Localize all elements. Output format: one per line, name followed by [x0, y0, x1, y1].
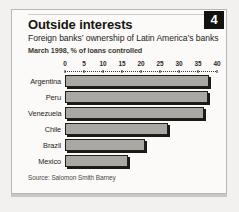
bar-row: Chile [28, 122, 220, 138]
x-axis-tick-label: 20 [137, 60, 144, 67]
bar-category-label: Mexico [28, 157, 61, 166]
x-axis-tick-mark [160, 70, 161, 73]
bar-category-label: Brazil [28, 141, 61, 150]
x-axis-tick-mark [179, 70, 180, 73]
bar-track [65, 91, 217, 104]
title-divider [28, 14, 218, 15]
bar-track [65, 139, 217, 152]
chart-card-content: Outside interests 4 Foreign banks’ owner… [19, 9, 227, 194]
chart-units-note: March 1998, % of loans controlled [28, 46, 142, 56]
x-axis-tick-label: 30 [175, 60, 182, 67]
chart-source: Source: Salomon Smith Barney [28, 174, 116, 181]
bar-row: Peru [28, 90, 220, 106]
bar [65, 75, 209, 87]
chart-subtitle: Foreign banks’ ownership of Latin Americ… [28, 33, 219, 44]
bar-track [65, 123, 217, 136]
bar-row: Brazil [28, 138, 220, 154]
x-axis-tick-mark [122, 70, 123, 73]
bar-category-label: Argentina [28, 77, 61, 86]
bar-category-label: Venezuela [28, 109, 61, 118]
x-axis-tick-label: 5 [82, 60, 86, 67]
x-axis-tick-mark [65, 70, 66, 73]
bar-track [65, 75, 217, 88]
x-axis-tick-mark [217, 70, 218, 73]
x-axis-tick-mark [84, 70, 85, 73]
chart-screenshot: Outside interests 4 Foreign banks’ owner… [0, 0, 239, 212]
bar-rows: ArgentinaPeruVenezuelaChileBrazilMexico [28, 74, 220, 170]
bar-category-label: Peru [28, 93, 61, 102]
x-axis-tick-mark [141, 70, 142, 73]
card-bottom-shadow [11, 194, 227, 197]
bar [65, 91, 208, 103]
x-axis-tick-mark [198, 70, 199, 73]
bar [65, 155, 128, 167]
x-axis [65, 70, 217, 73]
bar-row: Mexico [28, 154, 220, 170]
bar-row: Argentina [28, 74, 220, 90]
chart-number-badge: 4 [204, 11, 224, 29]
x-axis-tick-label: 10 [99, 60, 106, 67]
x-axis-tick-label: 25 [156, 60, 163, 67]
bar-track [65, 155, 217, 168]
bar-track [65, 107, 217, 120]
bar [65, 139, 145, 151]
x-axis-tick-label: 15 [118, 60, 125, 67]
x-axis-tick-label: 35 [194, 60, 201, 67]
bar [65, 107, 204, 119]
page-title: Outside interests [28, 17, 133, 32]
bar-category-label: Chile [28, 125, 61, 134]
x-axis-tick-labels: 0510152025303540 [65, 60, 217, 70]
x-axis-tick-mark [103, 70, 104, 73]
x-axis-tick-label: 40 [213, 60, 220, 67]
bar-row: Venezuela [28, 106, 220, 122]
bar [65, 123, 168, 135]
x-axis-tick-label: 0 [63, 60, 67, 67]
chart-plot-area: 0510152025303540 ArgentinaPeruVenezuelaC… [28, 60, 220, 170]
